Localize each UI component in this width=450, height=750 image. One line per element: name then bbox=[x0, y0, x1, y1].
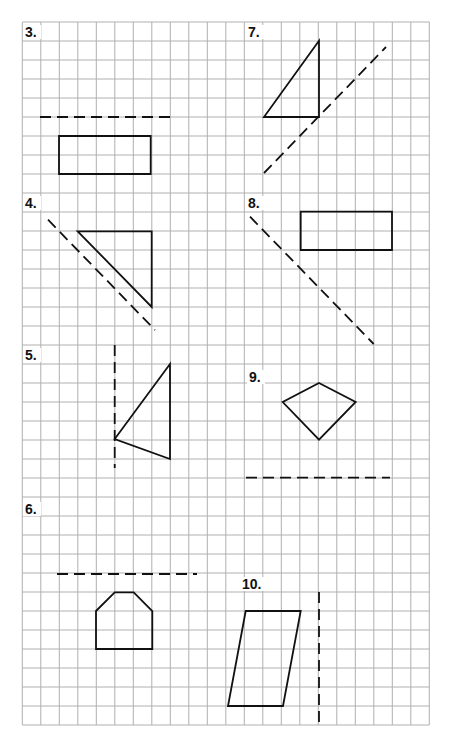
figure-shape bbox=[115, 364, 170, 459]
problem-number-label: 5. bbox=[25, 347, 37, 363]
problem-number-label: 4. bbox=[25, 195, 37, 211]
figure-shape bbox=[96, 592, 152, 649]
mirror-line-dashed bbox=[48, 220, 155, 330]
figure-shape bbox=[228, 611, 301, 706]
problem-4: 4. bbox=[23, 195, 155, 330]
mirror-line-dashed bbox=[264, 47, 386, 173]
problem-number-label: 10. bbox=[242, 576, 261, 592]
problem-number-label: 7. bbox=[248, 24, 260, 40]
reflection-worksheet: 3.7.4.8.5.9.6.10. bbox=[0, 0, 450, 750]
graph-paper-grid bbox=[22, 22, 429, 725]
problem-number-label: 6. bbox=[25, 501, 37, 517]
problem-number-label: 9. bbox=[249, 369, 261, 385]
problem-number-label: 8. bbox=[248, 195, 260, 211]
figure-shape bbox=[283, 383, 356, 440]
problem-6: 6. bbox=[23, 501, 197, 649]
problem-number-label: 3. bbox=[25, 24, 37, 40]
